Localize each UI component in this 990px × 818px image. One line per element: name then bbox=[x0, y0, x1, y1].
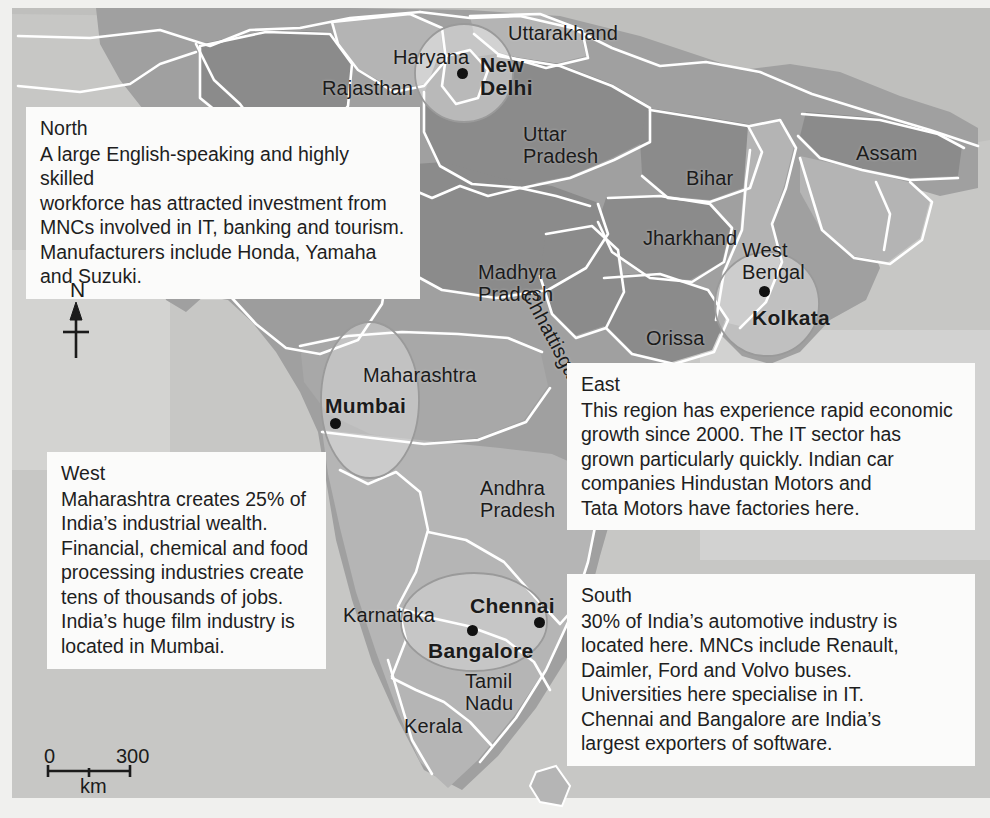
city-dot-chennai bbox=[534, 617, 545, 628]
state-label-rajasthan: Rajasthan bbox=[322, 78, 413, 100]
info-box-north: North A large English-speaking and highl… bbox=[26, 107, 420, 299]
info-box-south-title: South bbox=[581, 583, 963, 608]
state-label-kerala: Kerala bbox=[404, 716, 462, 738]
info-box-east-body: This region has experience rapid economi… bbox=[581, 398, 963, 521]
city-dot-mumbai bbox=[330, 418, 341, 429]
info-box-north-title: North bbox=[40, 116, 408, 141]
info-box-east-title: East bbox=[581, 372, 963, 397]
state-label-uttar-pradesh: Uttar Pradesh bbox=[523, 124, 598, 167]
info-box-north-body: A large English-speaking and highly skil… bbox=[40, 142, 408, 289]
city-label-kolkata: Kolkata bbox=[752, 307, 830, 330]
state-label-uttarakhand: Uttarakhand bbox=[508, 23, 618, 45]
info-box-south: South 30% of India’s automotive industry… bbox=[567, 574, 975, 766]
city-dot-new-delhi bbox=[457, 68, 468, 79]
state-label-andhra-pradesh: Andhra Pradesh bbox=[480, 478, 555, 521]
city-dot-bangalore bbox=[467, 625, 478, 636]
scale-bar-max-label: 300 bbox=[116, 745, 149, 768]
state-label-karnataka: Karnataka bbox=[343, 605, 435, 627]
scale-bar-unit-label: km bbox=[80, 775, 107, 798]
info-box-west: West Maharashtra creates 25% of India’s … bbox=[47, 452, 326, 669]
city-label-mumbai: Mumbai bbox=[325, 395, 406, 418]
info-box-south-body: 30% of India’s automotive industry is lo… bbox=[581, 609, 963, 756]
city-label-chennai: Chennai bbox=[470, 595, 555, 618]
state-label-maharashtra: Maharashtra bbox=[363, 365, 476, 387]
city-label-bangalore: Bangalore bbox=[428, 640, 533, 663]
state-label-haryana: Haryana bbox=[393, 47, 469, 69]
state-label-assam: Assam bbox=[856, 143, 918, 165]
scale-bar-min-label: 0 bbox=[44, 745, 55, 768]
state-label-orissa: Orissa bbox=[646, 328, 704, 350]
north-arrow-icon: N bbox=[62, 281, 96, 359]
state-label-jharkhand: Jharkhand bbox=[643, 228, 737, 250]
state-label-bihar: Bihar bbox=[686, 168, 733, 190]
city-dot-kolkata bbox=[759, 286, 770, 297]
north-arrow-label: N bbox=[70, 278, 85, 302]
map-figure: Rajasthan Haryana Uttarakhand Uttar Prad… bbox=[0, 0, 990, 818]
info-box-east: East This region has experience rapid ec… bbox=[567, 363, 975, 530]
state-label-west-bengal: West Bengal bbox=[742, 240, 805, 283]
city-label-new-delhi: New Delhi bbox=[480, 54, 533, 99]
info-box-west-body: Maharashtra creates 25% of India’s indus… bbox=[61, 487, 314, 659]
state-label-tamil-nadu: Tamil Nadu bbox=[465, 671, 513, 714]
info-box-west-title: West bbox=[61, 461, 314, 486]
scale-bar: 0 300 km bbox=[44, 745, 204, 805]
